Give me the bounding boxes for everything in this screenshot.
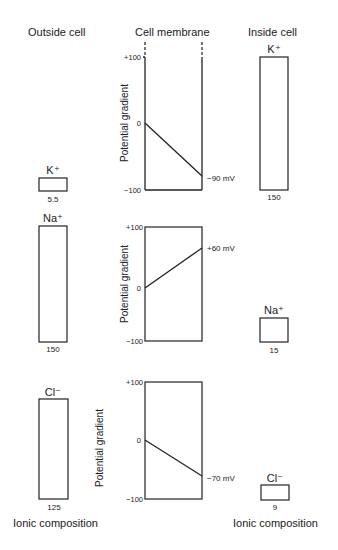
ion-label-inside: Na⁺ xyxy=(264,304,284,316)
header-outside-cell: Outside cell xyxy=(28,26,85,38)
ion-label-outside: K⁺ xyxy=(46,164,59,176)
tick-label-zero: 0 xyxy=(137,284,141,293)
axis-label-potential-gradient: Potential gradient xyxy=(119,84,130,162)
concentration-value-inside: 150 xyxy=(267,193,281,202)
tick-label-minus-100: −100 xyxy=(126,337,143,346)
concentration-bar-outside xyxy=(39,178,67,191)
ion-label-outside: Cl⁻ xyxy=(45,386,61,398)
ion-label-inside: Cl⁻ xyxy=(267,472,283,484)
membrane-box xyxy=(145,227,202,341)
concentration-value-inside: 9 xyxy=(273,503,278,512)
header-inside-cell: Inside cell xyxy=(248,26,297,38)
concentration-bar-inside xyxy=(261,485,289,500)
tick-label-plus-100: +100 xyxy=(126,223,143,232)
tick-label-plus-100: +100 xyxy=(124,53,141,62)
membrane-box xyxy=(145,382,202,499)
concentration-bar-inside xyxy=(260,318,288,342)
tick-label-zero: 0 xyxy=(137,436,141,445)
tick-label-minus-100: −100 xyxy=(124,186,141,195)
concentration-value-inside: 15 xyxy=(270,346,279,355)
potential-value-label: −70 mV xyxy=(207,474,235,483)
axis-label-potential-gradient: Potential gradient xyxy=(94,409,105,487)
axis-label-potential-gradient: Potential gradient xyxy=(119,245,130,323)
potential-value-label: −90 mV xyxy=(207,174,235,183)
potential-value-label: +60 mV xyxy=(207,244,235,253)
potential-gradient-line xyxy=(145,248,202,288)
concentration-value-outside: 125 xyxy=(47,503,61,512)
footer-ionic-composition-outside: Ionic composition xyxy=(13,517,98,529)
footer-ionic-composition-inside: Ionic composition xyxy=(233,517,318,529)
potential-gradient-line xyxy=(145,440,202,476)
tick-label-minus-100: −100 xyxy=(126,495,143,504)
concentration-value-outside: 5.5 xyxy=(47,195,59,204)
tick-label-plus-100: +100 xyxy=(126,378,143,387)
potential-gradient-line xyxy=(145,123,202,176)
concentration-bar-inside xyxy=(260,57,288,190)
concentration-value-outside: 150 xyxy=(46,345,60,354)
concentration-bar-outside xyxy=(39,226,67,342)
ion-label-outside: Na⁺ xyxy=(43,212,63,224)
membrane-potential-diagram: Outside cell Cell membrane Inside cell +… xyxy=(0,0,338,550)
panel-chloride: +100 0 −100 −70 mV Potential gradient Cl… xyxy=(39,378,289,512)
tick-label-zero: 0 xyxy=(137,119,141,128)
header-cell-membrane: Cell membrane xyxy=(135,26,210,38)
ion-label-inside: K⁺ xyxy=(267,43,280,55)
panel-sodium: +100 0 −100 +60 mV Potential gradient Na… xyxy=(39,212,288,355)
panel-potassium: +100 0 −100 −90 mV Potential gradient K⁺… xyxy=(39,42,288,204)
concentration-bar-outside xyxy=(39,399,68,499)
